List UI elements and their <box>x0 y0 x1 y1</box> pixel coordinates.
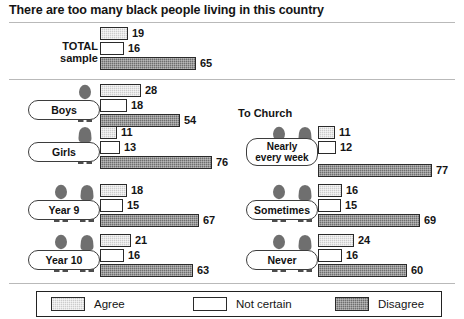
divider-total <box>9 79 455 80</box>
group-label-nearly-every-week: Nearly every week <box>246 138 318 166</box>
legend-item-disagree: Disagree <box>335 297 424 311</box>
value-disagree-sometimes: 69 <box>424 214 436 227</box>
bar-disagree-girls <box>100 156 212 169</box>
value-notcertain-total: 16 <box>128 42 140 55</box>
legend-label-agree: Agree <box>94 297 125 311</box>
section-header-to-church: To Church <box>238 107 292 119</box>
bar-agree-year-9 <box>100 184 127 197</box>
legend-swatch-agree <box>51 297 85 311</box>
bar-notcertain-girls <box>100 141 120 154</box>
value-agree-year-9: 18 <box>131 184 143 197</box>
value-disagree-girls: 76 <box>216 156 228 169</box>
group-label-year-10: Year 10 <box>28 250 100 270</box>
bar-notcertain-year-9 <box>100 199 123 212</box>
value-disagree-boys: 54 <box>184 114 196 127</box>
bar-agree-total <box>100 27 128 40</box>
bar-notcertain-sometimes <box>318 199 341 212</box>
value-notcertain-year-10: 16 <box>128 249 140 262</box>
value-notcertain-sometimes: 15 <box>345 199 357 212</box>
bar-agree-sometimes <box>318 184 342 197</box>
value-agree-sometimes: 16 <box>346 184 358 197</box>
value-agree-boys: 28 <box>145 84 157 97</box>
value-notcertain-never: 16 <box>346 249 358 262</box>
bar-disagree-year-9 <box>100 214 199 227</box>
bar-agree-boys <box>100 84 141 97</box>
group-label-year-9: Year 9 <box>28 200 100 220</box>
value-disagree-year-9: 67 <box>203 214 215 227</box>
legend: Agree Not certain Disagree <box>36 291 442 317</box>
bar-disagree-never <box>318 264 407 277</box>
bar-notcertain-year-10 <box>100 249 124 262</box>
group-label-girls: Girls <box>28 142 100 162</box>
bar-notcertain-boys <box>100 99 127 112</box>
bar-agree-year-10 <box>100 234 131 247</box>
bar-notcertain-weekly <box>318 141 336 154</box>
value-agree-girls: 11 <box>121 126 133 139</box>
value-disagree-year-10: 63 <box>197 264 209 277</box>
group-label-sometimes: Sometimes <box>246 200 318 220</box>
group-label-total-sample: TOTAL sample <box>38 40 98 64</box>
legend-swatch-not-certain <box>193 297 227 311</box>
bar-disagree-weekly <box>318 164 432 177</box>
value-disagree-never: 60 <box>411 264 423 277</box>
legend-label-disagree: Disagree <box>378 297 424 311</box>
value-notcertain-weekly: 12 <box>340 141 352 154</box>
legend-item-not-certain: Not certain <box>193 297 292 311</box>
value-disagree-total: 65 <box>200 57 212 70</box>
bar-disagree-year-10 <box>100 264 193 277</box>
legend-label-not-certain: Not certain <box>236 297 292 311</box>
value-agree-total: 19 <box>132 27 144 40</box>
bar-agree-girls <box>100 126 117 139</box>
page-title: There are too many black people living i… <box>9 3 324 17</box>
bar-agree-weekly <box>318 126 335 139</box>
bar-notcertain-total <box>100 42 124 55</box>
value-agree-never: 24 <box>358 234 370 247</box>
bar-disagree-sometimes <box>318 214 420 227</box>
value-notcertain-year-9: 15 <box>127 199 139 212</box>
group-label-boys: Boys <box>28 100 100 120</box>
divider-top <box>9 22 455 23</box>
value-notcertain-girls: 13 <box>124 141 136 154</box>
value-agree-weekly: 11 <box>339 126 351 139</box>
legend-swatch-disagree <box>335 297 369 311</box>
value-agree-year-10: 21 <box>135 234 147 247</box>
group-label-never: Never <box>246 250 318 270</box>
bar-notcertain-never <box>318 249 342 262</box>
legend-item-agree: Agree <box>51 297 125 311</box>
bar-agree-never <box>318 234 354 247</box>
value-notcertain-boys: 18 <box>131 99 143 112</box>
divider-bottom <box>9 283 455 284</box>
bar-disagree-total <box>100 57 196 70</box>
value-disagree-weekly: 77 <box>436 164 448 177</box>
